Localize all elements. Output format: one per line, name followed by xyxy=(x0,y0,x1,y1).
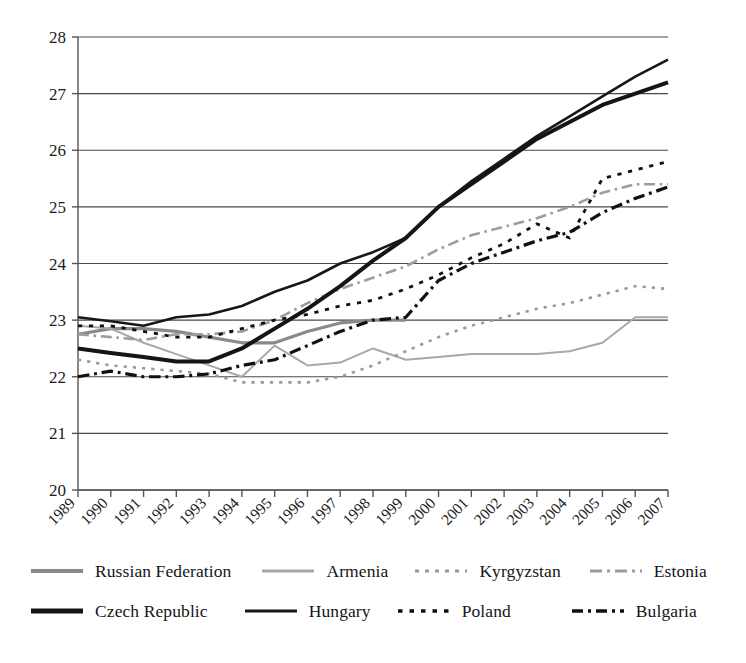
legend-label-hungary: Hungary xyxy=(309,601,371,622)
x-tick-label-1990: 1990 xyxy=(77,494,111,528)
y-tick-label-24: 24 xyxy=(49,255,67,274)
x-tick-label-1993: 1993 xyxy=(175,494,209,528)
x-tick-label-2002: 2002 xyxy=(470,494,504,528)
legend-label-armenia: Armenia xyxy=(326,561,388,582)
legend-row-1: Russian Federation Armenia Kyrgyzstan Es… xyxy=(28,551,728,591)
legend-label-kyrgyzstan: Kyrgyzstan xyxy=(479,561,560,582)
legend-swatch-czech-republic xyxy=(30,604,84,618)
legend-item-russian-federation[interactable]: Russian Federation xyxy=(30,561,231,582)
legend-item-armenia[interactable]: Armenia xyxy=(261,561,388,582)
x-tick-label-1998: 1998 xyxy=(339,494,373,528)
x-tick-label-1996: 1996 xyxy=(274,494,308,528)
y-axis xyxy=(72,37,78,490)
data-series-group xyxy=(78,60,668,383)
legend-label-russian-federation: Russian Federation xyxy=(95,561,231,582)
legend-label-poland: Poland xyxy=(462,601,511,622)
x-tick-label-1994: 1994 xyxy=(208,494,242,528)
y-tick-labels: 202122232425262728 xyxy=(49,28,67,500)
series-line-armenia xyxy=(78,317,668,376)
legend-item-czech-republic[interactable]: Czech Republic xyxy=(30,601,208,622)
series-line-poland xyxy=(78,162,668,338)
line-chart: 202122232425262728 198919901991199219931… xyxy=(0,0,746,663)
legend-row-2: Czech Republic Hungary Poland Bulgaria xyxy=(28,591,728,631)
legend-item-kyrgyzstan[interactable]: Kyrgyzstan xyxy=(414,561,560,582)
x-tick-label-1999: 1999 xyxy=(372,494,406,528)
legend-item-poland[interactable]: Poland xyxy=(397,601,511,622)
series-line-hungary xyxy=(78,60,668,326)
x-axis xyxy=(78,490,668,497)
x-tick-label-1997: 1997 xyxy=(306,494,340,528)
legend-swatch-armenia xyxy=(261,564,315,578)
y-tick-label-21: 21 xyxy=(49,424,66,443)
x-tick-label-1995: 1995 xyxy=(241,494,275,528)
grid-lines xyxy=(78,37,668,490)
x-tick-labels: 1989199019911992199319941995199619971998… xyxy=(44,494,668,528)
legend-label-bulgaria: Bulgaria xyxy=(636,601,697,622)
y-tick-label-26: 26 xyxy=(49,141,66,160)
chart-legend: Russian Federation Armenia Kyrgyzstan Es… xyxy=(28,551,728,631)
x-tick-label-2000: 2000 xyxy=(405,494,439,528)
legend-swatch-hungary xyxy=(244,604,298,618)
legend-swatch-estonia xyxy=(589,564,643,578)
x-tick-label-2001: 2001 xyxy=(438,494,472,528)
legend-item-bulgaria[interactable]: Bulgaria xyxy=(571,601,697,622)
x-tick-label-1991: 1991 xyxy=(110,494,144,528)
legend-label-czech-republic: Czech Republic xyxy=(95,601,208,622)
x-tick-label-2007: 2007 xyxy=(634,494,668,528)
legend-swatch-kyrgyzstan xyxy=(414,564,468,578)
x-tick-label-1992: 1992 xyxy=(143,494,177,528)
x-tick-label-2005: 2005 xyxy=(569,494,603,528)
y-tick-label-25: 25 xyxy=(49,198,66,217)
x-tick-label-2004: 2004 xyxy=(536,494,570,528)
legend-swatch-russian-federation xyxy=(30,564,84,578)
x-tick-label-2006: 2006 xyxy=(601,494,635,528)
legend-swatch-poland xyxy=(397,604,451,618)
legend-item-hungary[interactable]: Hungary xyxy=(244,601,371,622)
y-tick-label-28: 28 xyxy=(49,28,66,47)
y-tick-label-22: 22 xyxy=(49,368,66,387)
legend-swatch-bulgaria xyxy=(571,604,625,618)
legend-label-estonia: Estonia xyxy=(654,561,707,582)
y-tick-label-23: 23 xyxy=(49,311,66,330)
legend-item-estonia[interactable]: Estonia xyxy=(589,561,707,582)
x-tick-label-2003: 2003 xyxy=(503,494,537,528)
y-tick-label-27: 27 xyxy=(49,85,67,104)
